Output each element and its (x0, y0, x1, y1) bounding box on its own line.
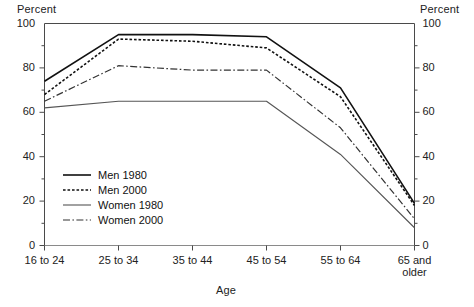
legend: Men 1980Men 2000Women 1980Women 2000 (63, 167, 163, 227)
legend-item: Men 1980 (63, 167, 163, 182)
legend-item: Women 2000 (63, 212, 163, 227)
y-tick-label-left: 20 (9, 194, 35, 206)
legend-label: Men 1980 (98, 169, 147, 181)
x-tick-label: 55 to 64 (304, 254, 378, 266)
legend-label: Men 2000 (98, 184, 147, 196)
x-tick-label: 65 andolder (378, 254, 452, 278)
y-tick-label-right: 60 (423, 105, 449, 117)
legend-swatch-men-2000 (63, 185, 91, 195)
legend-label: Women 2000 (98, 214, 163, 226)
x-tick-label: 16 to 24 (8, 254, 82, 266)
legend-item: Women 1980 (63, 197, 163, 212)
x-axis-title: Age (216, 284, 236, 296)
legend-label: Women 1980 (98, 199, 163, 211)
y-tick-label-right: 0 (423, 239, 449, 251)
legend-swatch-men-1980 (63, 170, 91, 180)
chart-figure: Percent Percent 020406080100 02040608010… (0, 0, 474, 307)
y-tick-label-right: 100 (423, 17, 449, 29)
y-tick-label-right: 80 (423, 61, 449, 73)
legend-swatch-women-2000 (63, 215, 91, 225)
y-tick-label-right: 40 (423, 150, 449, 162)
y-tick-label-left: 60 (9, 105, 35, 117)
y-tick-label-right: 20 (423, 194, 449, 206)
y-tick-label-left: 100 (9, 17, 35, 29)
x-tick-label: 45 to 54 (230, 254, 304, 266)
legend-swatch-women-1980 (63, 200, 91, 210)
x-tick-label: 35 to 44 (156, 254, 230, 266)
y-tick-label-left: 40 (9, 150, 35, 162)
legend-item: Men 2000 (63, 182, 163, 197)
x-tick-label: 25 to 34 (82, 254, 156, 266)
y-tick-label-left: 80 (9, 61, 35, 73)
y-tick-label-left: 0 (9, 239, 35, 251)
